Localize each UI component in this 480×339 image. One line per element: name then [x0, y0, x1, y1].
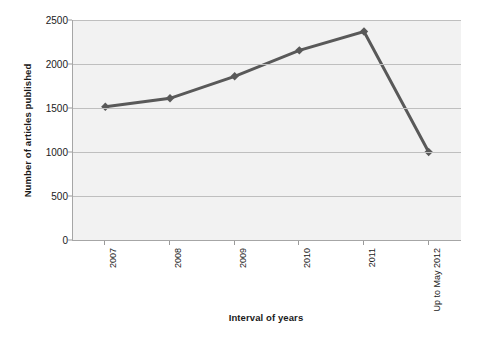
y-axis-tick-label: 1000 — [30, 147, 68, 158]
y-axis-tick-label: 0 — [30, 235, 68, 246]
data-point-marker — [230, 72, 238, 80]
line-chart: Number of articles published 05001000150… — [0, 0, 480, 339]
y-axis-tick-label: 2000 — [30, 59, 68, 70]
gridline — [73, 64, 461, 65]
x-axis-tick-mark — [234, 241, 235, 245]
data-point-marker — [101, 102, 109, 110]
gridline — [73, 108, 461, 109]
x-axis-tick-label: 2007 — [108, 248, 118, 268]
data-series-layer — [73, 20, 461, 240]
y-axis-tick-mark — [68, 108, 72, 109]
y-axis-tick-mark — [68, 196, 72, 197]
plot-area — [72, 20, 461, 241]
data-point-marker — [166, 94, 174, 102]
x-axis-tick-mark — [104, 241, 105, 245]
x-axis-tick-mark — [169, 241, 170, 245]
x-axis-tick-mark — [298, 241, 299, 245]
y-axis-tick-label: 1500 — [30, 103, 68, 114]
gridline — [73, 20, 461, 21]
y-axis-tick-mark — [68, 240, 72, 241]
y-axis-tick-mark — [68, 20, 72, 21]
gridline — [73, 196, 461, 197]
x-axis-title: Interval of years — [72, 312, 460, 323]
x-axis-tick-mark — [428, 241, 429, 245]
x-axis-tick-label: Up to May 2012 — [432, 248, 442, 312]
y-axis-tick-labels: 05001000150020002500 — [30, 0, 68, 339]
x-axis-tick-label: 2010 — [302, 248, 312, 268]
y-axis-tick-mark — [68, 64, 72, 65]
y-axis-tick-label: 500 — [30, 191, 68, 202]
x-axis-tick-label: 2009 — [238, 248, 248, 268]
gridline — [73, 152, 461, 153]
y-axis-tick-label: 2500 — [30, 15, 68, 26]
x-axis-tick-label: 2008 — [173, 248, 183, 268]
data-point-marker — [295, 46, 303, 54]
series-line — [105, 31, 428, 152]
x-axis-tick-label: 2011 — [367, 248, 377, 267]
y-axis-tick-mark — [68, 152, 72, 153]
x-axis-tick-mark — [363, 241, 364, 245]
